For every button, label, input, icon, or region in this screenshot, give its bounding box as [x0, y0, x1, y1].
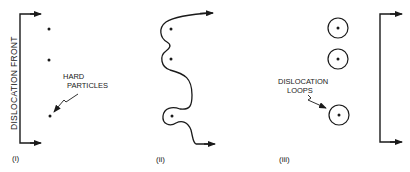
panel-iii: DISLOCATION LOOPS (iii): [278, 14, 402, 164]
dislocation-front-line: [20, 14, 40, 143]
panel-label-i: (i): [12, 154, 19, 163]
hard-particles-label-line2: PARTICLES: [67, 81, 108, 90]
hard-particle: [49, 115, 52, 118]
passed-dislocation-line: [380, 14, 400, 142]
hard-particles-label-line1: HARD: [63, 72, 85, 81]
hard-particle: [337, 58, 340, 61]
hard-particle: [170, 58, 173, 61]
bowing-dislocation-line: [161, 13, 214, 144]
panel-i: DISLOCATION FRONT HARD PARTICLES (i): [9, 14, 108, 163]
panel-label-ii: (ii): [156, 155, 165, 164]
axis-label-dislocation-front: DISLOCATION FRONT: [9, 36, 19, 130]
hard-particle: [171, 115, 174, 118]
hard-particle: [338, 114, 341, 117]
pointer-arrow-icon: [54, 94, 78, 112]
hard-particle: [337, 27, 340, 30]
orowan-mechanism-diagram: DISLOCATION FRONT HARD PARTICLES (i) (ii…: [0, 0, 410, 172]
top-arrow-icon: [200, 13, 213, 14]
dislocation-loops-label-line2: LOOPS: [287, 86, 313, 95]
dislocation-loops-label-line1: DISLOCATION: [278, 77, 328, 86]
hard-particle: [48, 28, 51, 31]
pointer-arrow-icon: [308, 95, 326, 108]
hard-particle: [48, 59, 51, 62]
panel-ii: (ii): [156, 13, 215, 164]
hard-particle: [170, 28, 173, 31]
panel-label-iii: (iii): [279, 155, 290, 164]
